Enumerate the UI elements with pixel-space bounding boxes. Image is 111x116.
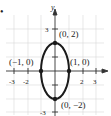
point-label-left: (−1, 0) <box>9 57 34 67</box>
x-tick-label: 2 <box>80 78 84 86</box>
y-tick-label: 3 <box>45 26 49 34</box>
x-tick-label: 3 <box>93 78 97 86</box>
x-tick-label: -3 <box>9 78 15 86</box>
x-axis-arrow-icon <box>102 69 108 73</box>
ellipse-diagram: • y -3 -2 2 3 3 -3 (0, 2) (−1, 0) (1, 0)… <box>0 0 111 116</box>
point-label-top: (0, 2) <box>59 29 79 39</box>
y-tick-label: -3 <box>40 109 46 116</box>
point-label-right: (1, 0) <box>70 57 90 67</box>
bullet-marker: • <box>0 6 4 17</box>
point-label-bottom: (0, −2) <box>61 100 86 110</box>
y-axis-label: y <box>50 3 55 12</box>
x-tick-label: -2 <box>23 78 29 86</box>
